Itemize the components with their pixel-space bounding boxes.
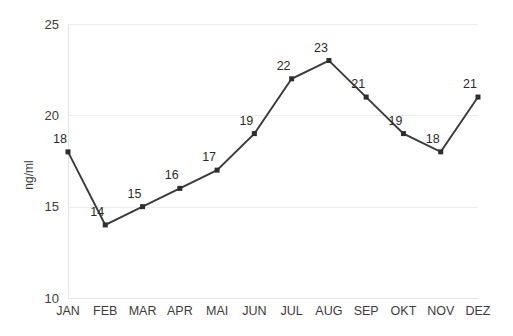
x-tick-label-sep: SEP [354, 304, 379, 318]
chart-canvas: 10152025 JANFEBMARAPRMAIJUNJULAUGSEPOKTN… [0, 0, 513, 336]
point-label-mar: 15 [128, 187, 142, 201]
x-tick-label-feb: FEB [93, 304, 117, 318]
y-tick-label-25: 25 [45, 17, 59, 32]
marker-apr [177, 186, 182, 191]
point-label-jul: 22 [277, 59, 291, 73]
point-label-nov: 18 [426, 132, 440, 146]
line-chart: 10152025 JANFEBMARAPRMAIJUNJULAUGSEPOKTN… [0, 0, 513, 336]
point-label-feb: 14 [90, 205, 104, 219]
x-tick-label-mai: MAI [206, 304, 228, 318]
x-tick-label-jul: JUL [281, 304, 303, 318]
y-axis-title: ng/ml [22, 160, 36, 189]
marker-dez [476, 95, 481, 100]
x-tick-label-nov: NOV [427, 304, 455, 318]
marker-feb [103, 222, 108, 227]
x-tick-label-aug: AUG [315, 304, 342, 318]
point-label-sep: 21 [351, 77, 365, 91]
x-tick-label-jun: JUN [242, 304, 266, 318]
x-tick-label-mar: MAR [129, 304, 157, 318]
y-tick-label-20: 20 [45, 108, 59, 123]
y-tick-label-15: 15 [45, 199, 59, 214]
x-tick-label-dez: DEZ [466, 304, 491, 318]
marker-okt [401, 131, 406, 136]
point-label-dez: 21 [463, 77, 477, 91]
x-tick-label-okt: OKT [391, 304, 417, 318]
point-label-jan: 18 [53, 132, 67, 146]
marker-jan [66, 149, 71, 154]
x-tick-label-jan: JAN [56, 304, 80, 318]
marker-nov [438, 149, 443, 154]
marker-jul [289, 76, 294, 81]
marker-jun [252, 131, 257, 136]
point-label-mai: 17 [202, 150, 216, 164]
point-label-aug: 23 [314, 41, 328, 55]
x-tick-label-apr: APR [167, 304, 193, 318]
point-label-jun: 19 [239, 114, 253, 128]
marker-mai [215, 168, 220, 173]
marker-mar [140, 204, 145, 209]
point-label-apr: 16 [165, 168, 179, 182]
marker-sep [364, 95, 369, 100]
point-label-okt: 19 [388, 114, 402, 128]
marker-aug [326, 58, 331, 63]
